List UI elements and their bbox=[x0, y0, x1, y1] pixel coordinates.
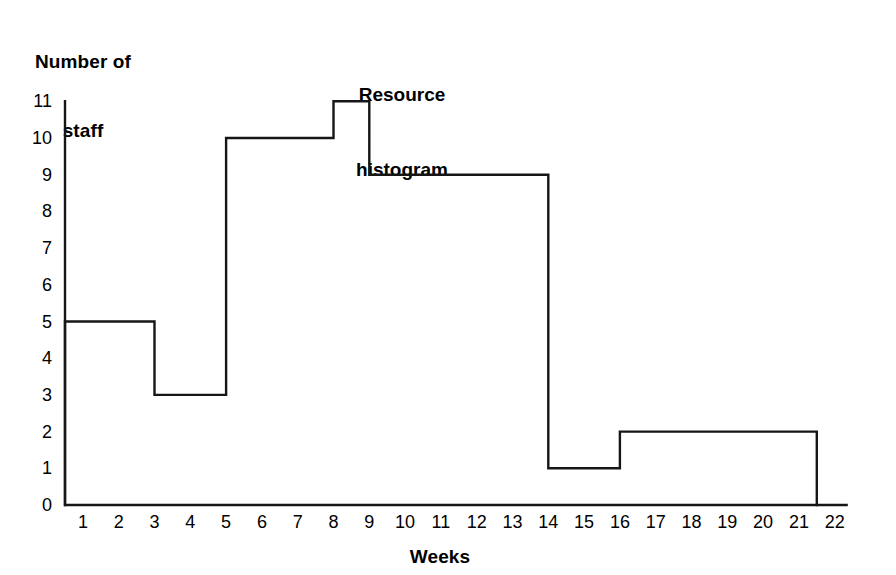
y-tick-label-2: 2 bbox=[18, 423, 52, 441]
x-tick-label-13: 13 bbox=[498, 513, 528, 531]
x-tick-label-2: 2 bbox=[104, 513, 134, 531]
x-tick-label-6: 6 bbox=[247, 513, 277, 531]
chart-title-line-1: Resource bbox=[312, 82, 492, 107]
chart-title-line-2: histogram bbox=[312, 157, 492, 182]
x-tick-label-9: 9 bbox=[354, 513, 384, 531]
y-tick-label-1: 1 bbox=[18, 459, 52, 477]
y-tick-label-7: 7 bbox=[18, 239, 52, 257]
y-tick-label-10: 10 bbox=[18, 129, 52, 147]
y-tick-label-8: 8 bbox=[18, 202, 52, 220]
x-axis-title: Weeks bbox=[380, 545, 500, 568]
chart-title: Resource histogram bbox=[312, 32, 492, 232]
x-tick-label-16: 16 bbox=[605, 513, 635, 531]
x-tick-label-12: 12 bbox=[462, 513, 492, 531]
x-tick-label-5: 5 bbox=[211, 513, 241, 531]
y-tick-label-9: 9 bbox=[18, 166, 52, 184]
x-tick-label-21: 21 bbox=[784, 513, 814, 531]
x-tick-label-11: 11 bbox=[426, 513, 456, 531]
y-tick-label-6: 6 bbox=[18, 276, 52, 294]
x-tick-label-14: 14 bbox=[533, 513, 563, 531]
resource-histogram-chart: Number of staff Resource histogram Weeks… bbox=[0, 0, 896, 575]
x-tick-label-10: 10 bbox=[390, 513, 420, 531]
x-tick-label-15: 15 bbox=[569, 513, 599, 531]
y-tick-label-3: 3 bbox=[18, 386, 52, 404]
x-tick-label-20: 20 bbox=[748, 513, 778, 531]
x-tick-label-4: 4 bbox=[175, 513, 205, 531]
x-tick-label-3: 3 bbox=[140, 513, 170, 531]
x-tick-label-7: 7 bbox=[283, 513, 313, 531]
x-tick-label-22: 22 bbox=[820, 513, 850, 531]
y-tick-label-11: 11 bbox=[18, 92, 52, 110]
y-tick-label-0: 0 bbox=[18, 496, 52, 514]
x-tick-label-17: 17 bbox=[641, 513, 671, 531]
x-tick-label-1: 1 bbox=[68, 513, 98, 531]
x-tick-label-18: 18 bbox=[677, 513, 707, 531]
x-tick-label-19: 19 bbox=[712, 513, 742, 531]
y-tick-label-4: 4 bbox=[18, 349, 52, 367]
y-axis-title-line-1: Number of bbox=[8, 50, 158, 73]
y-tick-label-5: 5 bbox=[18, 313, 52, 331]
x-tick-label-8: 8 bbox=[319, 513, 349, 531]
